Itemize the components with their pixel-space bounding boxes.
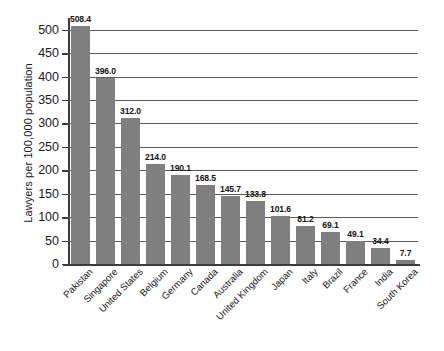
bar-value-label: 508.4 (70, 14, 91, 24)
bar (71, 26, 90, 264)
bar (371, 248, 390, 264)
y-tick-label: 150 (38, 187, 59, 201)
y-tick-label: 350 (38, 93, 59, 107)
bar-item: 168.5 (196, 18, 215, 264)
bar (96, 78, 115, 264)
bar-item: 133.8 (246, 18, 265, 264)
bar-item: 7.7 (396, 18, 415, 264)
bar-value-label: 49.1 (347, 229, 363, 239)
y-tick-label: 50 (45, 234, 59, 248)
bar-item: 49.1 (346, 18, 365, 264)
bar (221, 196, 240, 264)
bar (121, 118, 140, 264)
bar-item: 101.6 (271, 18, 290, 264)
bar (321, 232, 340, 264)
bar-item: 214.0 (146, 18, 165, 264)
bar-value-label: 168.5 (195, 173, 216, 183)
bar-value-label: 190.1 (170, 163, 191, 173)
y-tick-label: 500 (38, 23, 59, 37)
x-axis-label: France (340, 266, 369, 295)
bar-item: 145.7 (221, 18, 240, 264)
bar-chart: Lawyers per 100,000 population 050100150… (0, 0, 444, 351)
y-tick-label: 100 (38, 210, 59, 224)
bar (171, 175, 190, 264)
bar-value-label: 214.0 (145, 152, 166, 162)
y-tick-label: 400 (38, 70, 59, 84)
bar-value-label: 81.2 (297, 214, 313, 224)
bar-item: 34.4 (371, 18, 390, 264)
bar-value-label: 312.0 (120, 106, 141, 116)
x-axis-label: Japan (268, 266, 294, 292)
bar-value-label: 396.0 (95, 66, 116, 76)
x-axis-label: India (372, 266, 394, 288)
y-tick-label: 0 (52, 257, 59, 271)
x-axis-label: Italy (299, 266, 319, 286)
bar-value-label: 7.7 (400, 248, 412, 258)
bar (246, 201, 265, 264)
bar-item: 81.2 (296, 18, 315, 264)
bar-item: 508.4 (71, 18, 90, 264)
bar (146, 164, 165, 264)
y-tick-label: 300 (38, 116, 59, 130)
bar-value-label: 34.4 (372, 236, 388, 246)
x-axis-labels: PakistanSingaporeUnited StatesBelgiumGer… (68, 266, 418, 351)
y-tick-label: 450 (38, 46, 59, 60)
bar-value-label: 145.7 (220, 184, 241, 194)
plot-area: 050100150200250300350400450500 508.4396.… (68, 18, 418, 264)
bar (271, 216, 290, 264)
bar (346, 241, 365, 264)
bar-item: 69.1 (321, 18, 340, 264)
bar (396, 260, 415, 264)
y-tick-label: 200 (38, 163, 59, 177)
bar-series: 508.4396.0312.0214.0190.1168.5145.7133.8… (68, 18, 418, 264)
bar-value-label: 101.6 (270, 204, 291, 214)
bar-item: 190.1 (171, 18, 190, 264)
bar (196, 185, 215, 264)
bar-item: 312.0 (121, 18, 140, 264)
bar-value-label: 133.8 (245, 189, 266, 199)
bar-item: 396.0 (96, 18, 115, 264)
bar-value-label: 69.1 (322, 220, 338, 230)
y-tick-label: 250 (38, 140, 59, 154)
bar (296, 226, 315, 264)
